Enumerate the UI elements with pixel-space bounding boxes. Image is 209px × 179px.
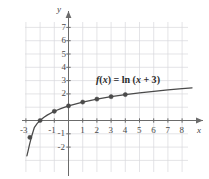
y-tick-label: 5 <box>62 50 67 59</box>
y-tick-label: -1 <box>58 129 66 138</box>
y-tick-label: 3 <box>62 76 67 85</box>
y-tick-label: 2 <box>62 89 67 98</box>
y-tick-label: -2 <box>58 143 66 152</box>
x-tick-label: 6 <box>151 126 156 135</box>
x-tick-label: 8 <box>180 126 185 135</box>
axes <box>22 11 203 176</box>
function-plot <box>0 0 209 179</box>
x-tick-label: 7 <box>165 126 170 135</box>
graph-figure: f(x) = ln (x + 3) -3-112345678765432-1-2… <box>0 0 209 179</box>
y-tick-label: 6 <box>62 36 67 45</box>
x-tick-label: 3 <box>109 126 114 135</box>
y-axis-label: y <box>57 5 61 14</box>
x-tick-label: -3 <box>20 126 28 135</box>
function-label-close2: ) <box>157 74 160 85</box>
function-label-ln: ln <box>122 74 130 85</box>
function-label: f(x) = ln (x + 3) <box>96 74 160 85</box>
x-axis-label: x <box>197 126 201 135</box>
y-tick-label: 7 <box>62 23 67 32</box>
function-label-plus3: + 3 <box>141 74 157 85</box>
y-tick-label: 4 <box>62 63 67 72</box>
x-tick-label: -1 <box>48 126 56 135</box>
x-tick-label: 1 <box>80 126 85 135</box>
function-label-equals: = <box>111 74 122 85</box>
x-tick-label: 2 <box>94 126 99 135</box>
x-tick-label: 4 <box>123 126 128 135</box>
x-tick-label: 5 <box>137 126 142 135</box>
